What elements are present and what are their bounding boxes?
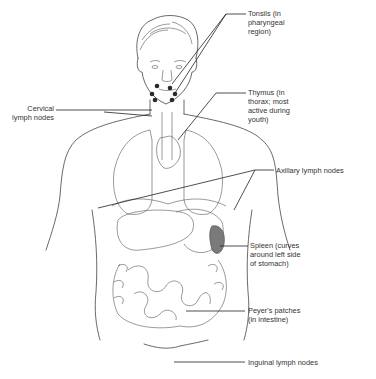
label-spleen: Spleen (curves around left side of stoma… bbox=[250, 241, 301, 268]
label-axillary-lymph-nodes: Axillary lymph nodes bbox=[276, 166, 344, 175]
lymphatic-diagram: Tonsils (in pharyngeal region) Thymus (i… bbox=[0, 0, 376, 379]
spleen-illustration bbox=[210, 226, 225, 254]
label-inguinal-lymph-nodes: Inguinal lymph nodes bbox=[248, 358, 318, 367]
label-tonsils: Tonsils (in pharyngeal region) bbox=[248, 9, 285, 36]
leader-lines bbox=[56, 14, 274, 362]
head-drawing bbox=[137, 16, 198, 115]
label-thymus: Thymus (in thorax; most active during yo… bbox=[248, 88, 290, 124]
label-cervical-lymph-nodes: Cervical lymph nodes bbox=[4, 104, 54, 122]
tonsils-illustration bbox=[150, 84, 178, 103]
label-peyers-patches: Peyer's patches (in intestine) bbox=[248, 306, 300, 324]
body-illustration bbox=[0, 0, 376, 379]
